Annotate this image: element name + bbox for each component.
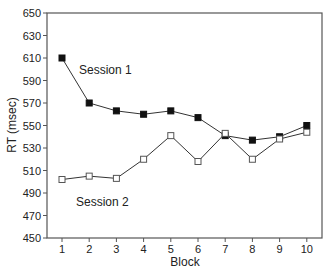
open-square-marker — [113, 175, 119, 181]
series-annotation-1: Session 1 — [79, 63, 132, 77]
y-tick-label: 610 — [23, 52, 41, 64]
open-square-marker — [222, 130, 228, 136]
series-annotation-2: Session 2 — [76, 195, 129, 209]
y-tick-label: 450 — [23, 232, 41, 244]
x-tick-label: 8 — [249, 243, 255, 255]
rt-line-chart: 450470490510530550570590610630650 123456… — [0, 0, 331, 271]
filled-square-marker — [304, 123, 310, 129]
y-tick-label: 570 — [23, 97, 41, 109]
y-tick-label: 630 — [23, 30, 41, 42]
x-axis-label: Block — [170, 255, 200, 269]
filled-square-marker — [249, 137, 255, 143]
filled-square-marker — [195, 115, 201, 121]
filled-square-marker — [86, 100, 92, 106]
x-axis: 12345678910 — [59, 238, 313, 255]
open-square-marker — [168, 133, 174, 139]
open-square-marker — [86, 173, 92, 179]
open-square-marker — [277, 136, 283, 142]
y-tick-label: 490 — [23, 187, 41, 199]
series-line — [62, 132, 307, 179]
y-axis-label: RT (msec) — [5, 97, 19, 153]
annotation-layer: Session 1Session 2 — [76, 63, 132, 209]
y-tick-label: 510 — [23, 165, 41, 177]
filled-square-marker — [168, 108, 174, 114]
y-tick-label: 470 — [23, 210, 41, 222]
y-tick-label: 590 — [23, 75, 41, 87]
x-tick-label: 7 — [222, 243, 228, 255]
x-tick-label: 5 — [168, 243, 174, 255]
open-square-marker — [59, 177, 65, 183]
open-square-marker — [195, 159, 201, 165]
open-square-marker — [304, 129, 310, 135]
filled-square-marker — [59, 55, 65, 61]
x-tick-label: 2 — [86, 243, 92, 255]
y-axis: 450470490510530550570590610630650 — [23, 7, 47, 244]
open-square-marker — [141, 156, 147, 162]
x-tick-label: 1 — [59, 243, 65, 255]
filled-square-marker — [141, 111, 147, 117]
x-tick-label: 9 — [277, 243, 283, 255]
x-tick-label: 10 — [301, 243, 313, 255]
open-square-marker — [249, 156, 255, 162]
x-tick-label: 6 — [195, 243, 201, 255]
y-tick-label: 530 — [23, 142, 41, 154]
x-tick-label: 3 — [113, 243, 119, 255]
filled-square-marker — [113, 108, 119, 114]
x-tick-label: 4 — [141, 243, 147, 255]
y-tick-label: 650 — [23, 7, 41, 19]
y-tick-label: 550 — [23, 120, 41, 132]
